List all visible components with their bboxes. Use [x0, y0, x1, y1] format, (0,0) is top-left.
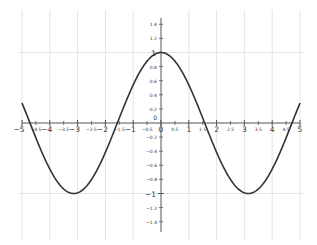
y-minor-tick-label: −1.2 — [146, 206, 157, 211]
x-minor-tick-label: −2.5 — [86, 127, 97, 132]
y-minor-tick-label: 0.2 — [150, 107, 157, 112]
y-minor-tick-label: −0.2 — [146, 135, 157, 140]
x-minor-tick-label: −0.5 — [142, 127, 153, 132]
x-major-tick-label: −3 — [69, 125, 80, 134]
x-minor-tick-label: 3.5 — [255, 127, 262, 132]
cosine-plot: −5−4−3−2−1012345−4.5−3.5−2.5−1.5−0.50.51… — [0, 0, 317, 245]
origin-label: 0 — [153, 114, 157, 121]
y-minor-tick-label: 1.4 — [150, 22, 157, 27]
x-major-tick-label: 2 — [214, 125, 219, 134]
x-major-tick-label: 5 — [298, 125, 303, 134]
y-minor-tick-label: −0.8 — [146, 177, 157, 182]
y-minor-tick-label: 0.4 — [150, 93, 157, 98]
x-major-tick-label: 0 — [159, 125, 164, 134]
x-major-tick-label: 1 — [186, 125, 191, 134]
y-minor-tick-label: 0.6 — [150, 79, 157, 84]
x-minor-tick-label: 1.5 — [199, 127, 206, 132]
y-minor-tick-label: −0.4 — [146, 149, 157, 154]
x-major-tick-label: −4 — [41, 125, 52, 134]
x-major-tick-label: 4 — [270, 125, 275, 134]
x-major-tick-label: −1 — [125, 125, 136, 134]
x-major-tick-label: −5 — [13, 125, 24, 134]
x-minor-tick-label: −3.5 — [58, 127, 69, 132]
x-minor-tick-label: 0.5 — [171, 127, 178, 132]
y-major-tick-label: −1 — [145, 190, 156, 199]
y-minor-tick-label: 1.2 — [150, 36, 157, 41]
y-minor-tick-label: −0.6 — [146, 163, 157, 168]
x-major-tick-label: 3 — [242, 125, 247, 134]
x-major-tick-label: −2 — [97, 125, 108, 134]
y-minor-tick-label: −1.4 — [146, 220, 157, 225]
y-minor-tick-label: 0.8 — [150, 65, 157, 70]
x-minor-tick-label: 2.5 — [227, 127, 234, 132]
